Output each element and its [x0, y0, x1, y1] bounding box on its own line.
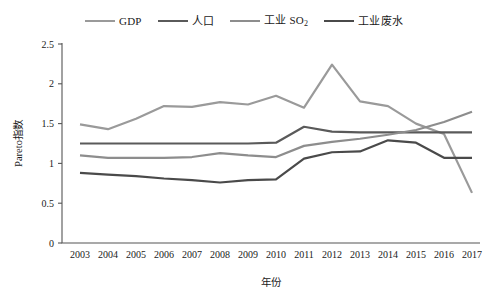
series-line-3: [80, 140, 472, 182]
x-tick-label: 2004: [98, 249, 118, 260]
x-tick-label: 2017: [462, 249, 482, 260]
x-tick-label: 2012: [322, 249, 342, 260]
x-tick-label: 2005: [126, 249, 146, 260]
chart-figure: GDP 人口 工业 SO2 工业废水 00.511.522.5200320042…: [0, 0, 488, 296]
series-line-0: [80, 65, 472, 193]
y-tick-label: 1: [49, 158, 54, 169]
x-tick-label: 2006: [154, 249, 174, 260]
x-tick-label: 2013: [350, 249, 370, 260]
x-tick-label: 2011: [294, 249, 314, 260]
x-tick-label: 2010: [266, 249, 286, 260]
y-tick-label: 1.5: [42, 118, 55, 129]
x-tick-label: 2014: [378, 249, 398, 260]
y-tick-label: 0.5: [42, 198, 55, 209]
series-line-1: [80, 127, 472, 144]
x-tick-label: 2016: [434, 249, 454, 260]
y-tick-label: 2: [49, 78, 54, 89]
x-tick-label: 2015: [406, 249, 426, 260]
x-tick-label: 2009: [238, 249, 258, 260]
y-axis-title: Pareto指数: [12, 119, 24, 167]
chart-plot-area: 00.511.522.52003200420052006200720082009…: [0, 0, 488, 296]
x-tick-label: 2007: [182, 249, 202, 260]
x-tick-label: 2008: [210, 249, 230, 260]
y-tick-label: 2.5: [42, 39, 55, 50]
y-tick-label: 0: [49, 238, 54, 249]
x-axis-title: 年份: [261, 276, 282, 288]
x-tick-label: 2003: [70, 249, 90, 260]
